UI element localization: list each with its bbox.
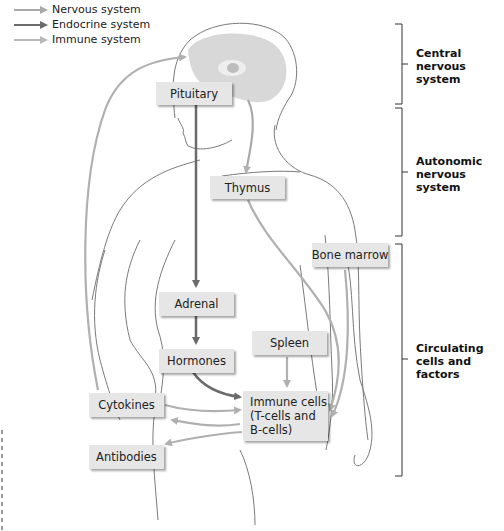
immune-cells-line3: B-cells) [250, 423, 292, 437]
antibodies-box: Antibodies [89, 445, 164, 469]
bone-marrow-box: Bone marrow [312, 243, 388, 267]
legend-item-immune: Immune system [14, 32, 150, 47]
legend-label: Endocrine system [52, 18, 150, 31]
neuroimmune-diagram: Nervous system Endocrine system Immune s… [0, 0, 504, 531]
immune-arrow-icon [14, 36, 48, 44]
immune-cells-box: Immune cells (T-cells and B-cells) [243, 391, 328, 441]
legend: Nervous system Endocrine system Immune s… [14, 2, 150, 47]
immune-cells-line2: (T-cells and [250, 409, 316, 423]
cytokines-box: Cytokines [89, 393, 164, 417]
autonomic-nervous-system-label: Autonomic nervous system [416, 155, 482, 194]
immune-cells-line1: Immune cells [250, 395, 327, 409]
thymus-box: Thymus [210, 176, 285, 199]
hormones-box: Hormones [159, 349, 234, 373]
spleen-box: Spleen [252, 331, 327, 355]
central-nervous-system-label: Central nervous system [416, 47, 466, 86]
endocrine-arrow-icon [14, 21, 48, 29]
legend-label: Immune system [52, 33, 141, 46]
adrenal-box: Adrenal [159, 292, 234, 316]
circulating-cells-label: Circulating cells and factors [416, 342, 484, 381]
nervous-arrow-icon [14, 6, 48, 14]
legend-label: Nervous system [52, 3, 141, 16]
legend-item-endocrine: Endocrine system [14, 17, 150, 32]
pituitary-box: Pituitary [156, 82, 232, 105]
legend-item-nervous: Nervous system [14, 2, 150, 17]
